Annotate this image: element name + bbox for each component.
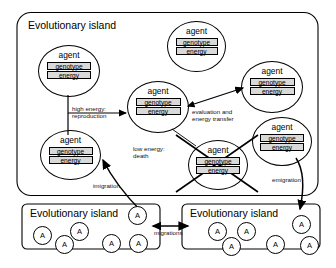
reproduction-label: high energy: reproduction bbox=[72, 105, 106, 119]
small-agent[interactable]: A bbox=[208, 222, 227, 241]
agent-name-label: agent bbox=[262, 67, 283, 76]
diagram-canvas: Evolutionary island Evolutionary island … bbox=[0, 0, 336, 268]
agent-genotype-field: genotype bbox=[196, 157, 240, 165]
agent-right-upper[interactable]: agent genotype energy bbox=[241, 61, 303, 113]
small-agent[interactable]: A bbox=[292, 215, 311, 234]
agent-name-label: agent bbox=[272, 123, 293, 132]
left-island-title: Evolutionary island bbox=[30, 207, 118, 219]
agent-genotype-field: genotype bbox=[49, 147, 93, 155]
agent-energy-field: energy bbox=[260, 143, 304, 151]
right-island-title: Evolutionary island bbox=[190, 207, 278, 219]
agent-energy-field: energy bbox=[250, 87, 295, 95]
agent-genotype-field: genotype bbox=[176, 38, 218, 46]
agent-genotype-field: genotype bbox=[250, 78, 295, 86]
small-agent[interactable]: A bbox=[222, 237, 241, 256]
agent-energy-field: energy bbox=[136, 107, 181, 115]
agent-name-label: agent bbox=[60, 136, 81, 145]
agent-center[interactable]: agent genotype energy bbox=[127, 81, 189, 133]
agent-genotype-field: genotype bbox=[136, 98, 181, 106]
agent-name-label: agent bbox=[208, 146, 229, 155]
emigration-edge bbox=[296, 158, 303, 209]
agent-top-center[interactable]: agent genotype energy bbox=[167, 21, 226, 72]
small-agent[interactable]: A bbox=[102, 234, 121, 253]
agent-energy-field: energy bbox=[49, 156, 93, 164]
small-agent[interactable]: A bbox=[55, 235, 74, 254]
evaluation-label: evaluation and energy transfer bbox=[192, 108, 234, 122]
death-edge bbox=[172, 129, 196, 146]
agent-name-label: agent bbox=[186, 27, 207, 36]
small-agent[interactable]: A bbox=[70, 222, 89, 241]
immigration-label: imigration bbox=[93, 182, 120, 189]
agent-name-label: agent bbox=[148, 87, 169, 96]
evaluation-edge bbox=[188, 88, 243, 106]
agent-genotype-field: genotype bbox=[260, 134, 304, 142]
emigration-label: emigration bbox=[272, 176, 301, 183]
small-agent[interactable]: A bbox=[237, 222, 256, 241]
agent-genotype-field: genotype bbox=[47, 62, 91, 70]
agent-lower-left[interactable]: agent genotype energy bbox=[40, 130, 101, 180]
small-agent[interactable]: A bbox=[300, 236, 319, 255]
agent-upper-left[interactable]: agent genotype energy bbox=[38, 45, 100, 97]
death-label: low energy: death bbox=[133, 145, 165, 159]
migrations-label: migrations bbox=[154, 229, 183, 236]
small-agent[interactable]: A bbox=[33, 226, 52, 245]
agent-right-lower[interactable]: agent genotype energy bbox=[252, 117, 312, 166]
agent-energy-field: energy bbox=[176, 47, 218, 55]
small-agent[interactable]: A bbox=[129, 234, 148, 253]
small-agent[interactable]: A bbox=[266, 235, 285, 254]
small-agent[interactable]: A bbox=[128, 206, 147, 225]
agent-dead[interactable]: agent genotype energy bbox=[188, 140, 248, 190]
agent-energy-field: energy bbox=[47, 71, 91, 79]
main-island-title: Evolutionary island bbox=[28, 19, 116, 31]
agent-energy-field: energy bbox=[196, 166, 240, 174]
agent-name-label: agent bbox=[59, 51, 80, 60]
